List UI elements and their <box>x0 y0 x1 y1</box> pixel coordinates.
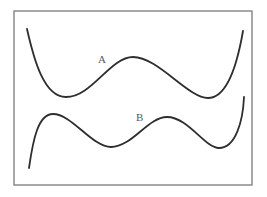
curve-a-label: A <box>98 53 106 65</box>
diagram-frame <box>14 11 252 185</box>
curve-b-label: B <box>136 111 143 123</box>
diagram-canvas: A B <box>0 0 267 197</box>
curve-b <box>29 97 244 168</box>
curve-a <box>27 29 243 98</box>
